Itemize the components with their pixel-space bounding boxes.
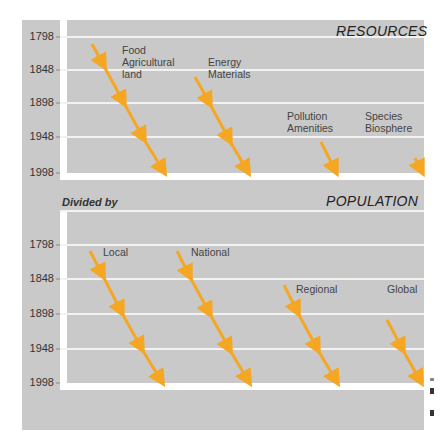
divided-by-label: Divided by <box>62 196 118 208</box>
arrow-energy-3 <box>231 143 248 172</box>
label-global: Global <box>387 283 417 295</box>
label-species: Species Biosphere <box>365 110 412 134</box>
y-tick-1848-b: 1848 <box>18 272 54 284</box>
y-tick-1948: 1948 <box>18 130 54 142</box>
arrow-food-1 <box>92 44 104 66</box>
edge-mark <box>430 410 434 416</box>
population-arrows <box>90 251 421 382</box>
y-tick-1798: 1798 <box>18 30 54 42</box>
arrow-food-3 <box>125 105 144 139</box>
y-tick-1798-b: 1798 <box>18 238 54 250</box>
label-energy: Energy Materials <box>208 56 251 80</box>
edge-mark <box>430 388 434 394</box>
label-local: Local <box>103 246 128 258</box>
y-tick-1898-b: 1898 <box>18 307 54 319</box>
y-tick-1898: 1898 <box>18 96 54 108</box>
arrow-energy-2 <box>211 106 230 141</box>
label-pollution: Pollution Amenities <box>287 110 333 134</box>
label-regional: Regional <box>296 283 337 295</box>
label-food: Food Agricultural land <box>122 44 175 80</box>
y-tick-1998: 1998 <box>18 166 54 178</box>
y-tick-1948-b: 1948 <box>18 342 54 354</box>
population-chart <box>56 211 424 390</box>
arrow-food-4 <box>145 141 164 172</box>
arrow-pollution-1 <box>321 142 336 172</box>
population-title: POPULATION <box>326 193 418 209</box>
label-national: National <box>191 246 230 258</box>
resources-title: RESOURCES <box>336 23 427 39</box>
edge-mark <box>430 378 434 381</box>
arrow-energy-1 <box>195 77 210 104</box>
y-tick-1848: 1848 <box>18 63 54 75</box>
y-tick-1998-b: 1998 <box>18 376 54 388</box>
arrow-species-1 <box>415 158 422 172</box>
